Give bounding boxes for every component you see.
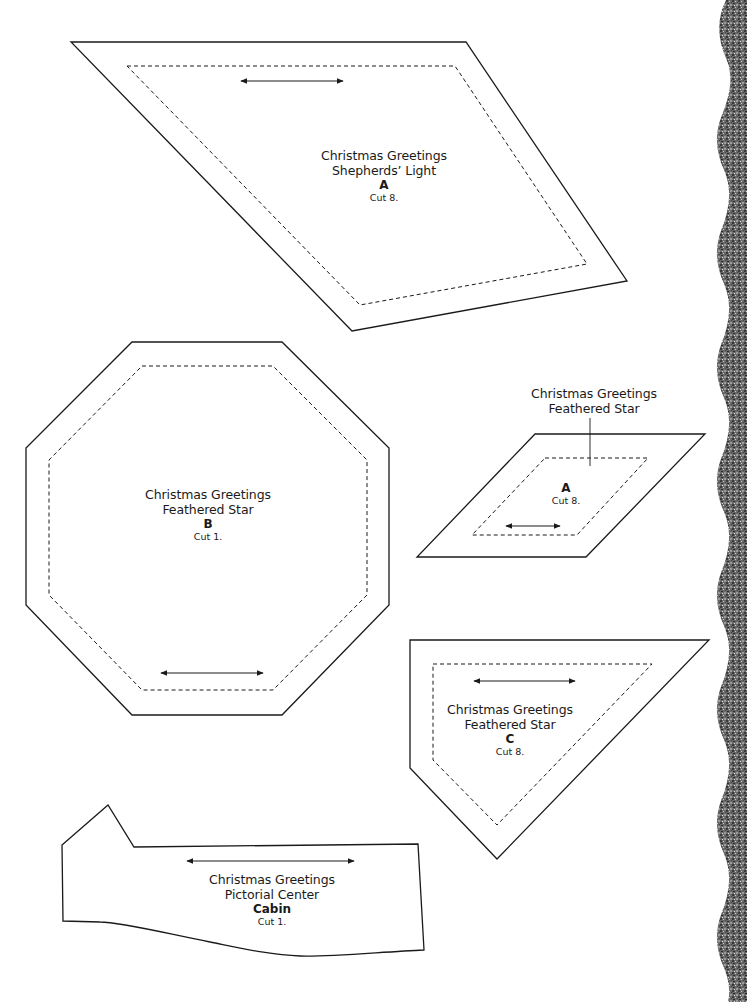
piece-name: Cabin (209, 903, 335, 915)
label-line: Christmas Greetings (209, 874, 335, 887)
piece-letter: A (552, 482, 580, 494)
label-line: Feathered Star (447, 719, 573, 732)
textured-border-strip (717, 0, 747, 1002)
label-shepherds-light-a: Christmas Greetings Shepherds’ Light A C… (321, 150, 447, 203)
label-feathered-star-c: Christmas Greetings Feathered Star C Cut… (447, 704, 573, 757)
label-line: Feathered Star (145, 504, 271, 517)
label-line: Feathered Star (531, 403, 657, 416)
cut-instruction: Cut 8. (552, 496, 580, 506)
label-line: Shepherds’ Light (321, 165, 447, 178)
cut-instruction: Cut 1. (145, 532, 271, 542)
cut-instruction: Cut 8. (321, 193, 447, 203)
piece-letter: B (145, 518, 271, 530)
label-feathered-star-a-title: Christmas Greetings Feathered Star (531, 388, 657, 417)
label-line: Christmas Greetings (531, 388, 657, 401)
piece-letter: C (447, 733, 573, 745)
cut-instruction: Cut 8. (447, 747, 573, 757)
label-line: Christmas Greetings (447, 704, 573, 717)
label-feathered-star-a-piece: A Cut 8. (552, 481, 580, 506)
label-feathered-star-b: Christmas Greetings Feathered Star B Cut… (145, 489, 271, 542)
label-line: Christmas Greetings (145, 489, 271, 502)
label-line: Christmas Greetings (321, 150, 447, 163)
label-line: Pictorial Center (209, 889, 335, 902)
label-pictorial-center-cabin: Christmas Greetings Pictorial Center Cab… (209, 874, 335, 927)
piece-letter: A (321, 179, 447, 191)
cut-instruction: Cut 1. (209, 917, 335, 927)
